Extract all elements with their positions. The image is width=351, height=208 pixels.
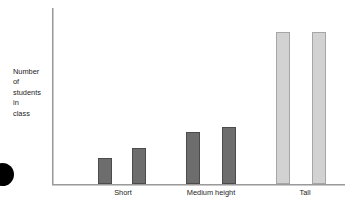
bar (186, 132, 200, 184)
x-axis-category-label: Short (114, 188, 132, 198)
bars-layer (0, 0, 351, 208)
x-axis-category-label: Medium height (187, 188, 235, 198)
bar (98, 158, 112, 184)
bar (312, 32, 326, 184)
bar (132, 148, 146, 184)
bar (276, 32, 290, 184)
bar-chart-screenshot: Number of students in class ShortMedium … (0, 0, 351, 208)
bar (222, 127, 236, 184)
x-axis-category-label: Tall (299, 188, 310, 198)
